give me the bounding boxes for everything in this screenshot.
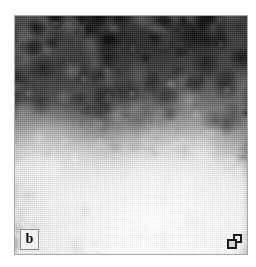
panel-label-b: b — [20, 229, 39, 250]
edge-vignette — [15, 16, 247, 254]
scan-image — [15, 16, 247, 254]
figure-root: b — [0, 0, 256, 267]
overlapping-squares-icon-front — [227, 239, 237, 249]
micrograph-frame: b — [14, 15, 248, 255]
overlapping-squares-icon — [227, 234, 242, 249]
